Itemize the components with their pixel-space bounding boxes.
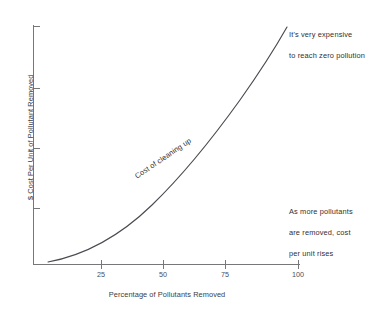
- x-axis-title-text: Percentage of Pollutants Removed: [109, 290, 226, 299]
- annotation-top-right-line-1: It's very expensive: [289, 30, 365, 40]
- x-tick-label-25: 25: [97, 270, 105, 279]
- x-tick-label-75: 75: [221, 270, 229, 279]
- y-axis-title-text: $ Cost Per Unit of Pollutant Removed: [26, 75, 35, 201]
- annotation-bottom-right-line-3: per unit rises: [289, 249, 353, 259]
- annotation-top-right-line-2: to reach zero pollution: [289, 51, 365, 61]
- annotation-bottom-right-line-2: are removed, cost: [289, 228, 353, 238]
- chart-figure: 25 50 75 100 Percentage of Pollutants Re…: [0, 0, 386, 309]
- y-axis-title: $ Cost Per Unit of Pollutant Removed: [19, 75, 37, 201]
- annotation-top-right: It's very expensive to reach zero pollut…: [289, 20, 365, 72]
- x-axis-title: Percentage of Pollutants Removed: [33, 283, 301, 301]
- x-tick-label-50: 50: [159, 270, 167, 279]
- annotation-bottom-right-line-1: As more pollutants: [289, 207, 353, 217]
- x-tick-label-100: 100: [292, 270, 304, 279]
- annotation-bottom-right: As more pollutants are removed, cost per…: [289, 197, 353, 270]
- cost-curve: [48, 27, 287, 262]
